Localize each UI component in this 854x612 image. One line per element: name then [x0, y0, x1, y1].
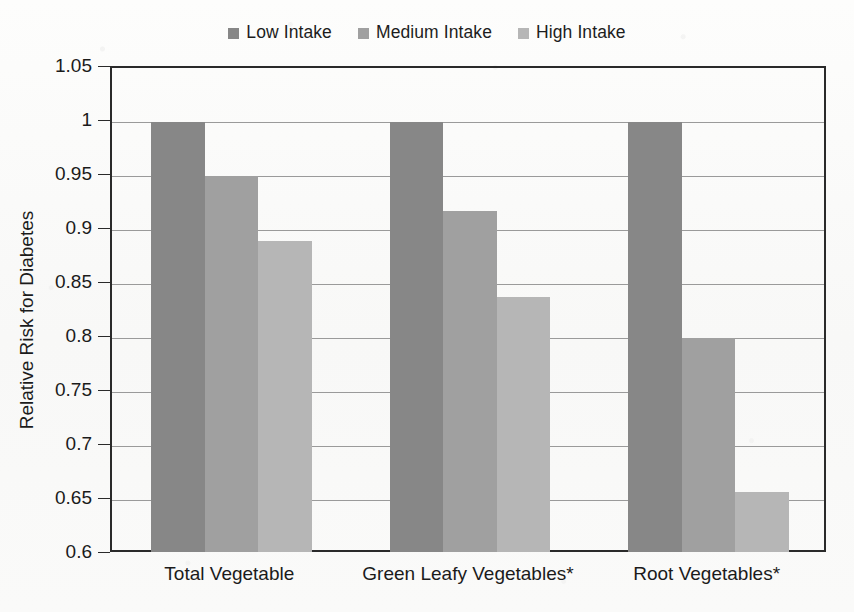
legend-item-high-intake[interactable]: High Intake [518, 22, 626, 43]
legend-item-label: Low Intake [246, 22, 332, 43]
y-axis-tick-mark [98, 498, 110, 499]
y-axis-tick-label: 0.95 [55, 163, 92, 185]
y-axis-tick-label: 0.8 [66, 325, 92, 347]
bar[interactable] [735, 492, 789, 552]
bar[interactable] [258, 241, 312, 552]
bar[interactable] [497, 297, 551, 552]
legend-swatch-low-intake [228, 28, 239, 39]
y-axis-tick-mark [98, 552, 110, 553]
y-axis-tick-mark [98, 444, 110, 445]
x-axis-category-label: Root Vegetables* [587, 563, 826, 585]
bar[interactable] [443, 211, 497, 552]
y-axis-title: Relative Risk for Diabetes [16, 130, 38, 510]
bar[interactable] [628, 122, 682, 552]
y-axis-tick-label: 0.65 [55, 487, 92, 509]
bar[interactable] [205, 176, 259, 552]
y-axis-tick-mark [98, 390, 110, 391]
x-axis-category-label: Total Vegetable [110, 563, 349, 585]
y-axis-tick-mark [98, 66, 110, 67]
y-axis-tick-label: 1.05 [55, 55, 92, 77]
y-axis-tick-label: 1 [81, 109, 92, 131]
x-axis-category-label: Green Leafy Vegetables* [349, 563, 588, 585]
gridline [112, 122, 824, 123]
legend-item-label: High Intake [536, 22, 626, 43]
y-axis-tick-mark [98, 174, 110, 175]
legend-swatch-high-intake [518, 28, 529, 39]
chart-legend: Low IntakeMedium IntakeHigh Intake [0, 22, 854, 43]
y-axis-tick-mark [98, 282, 110, 283]
y-axis-tick-mark [98, 228, 110, 229]
bar[interactable] [390, 122, 444, 552]
y-axis-tick-mark [98, 336, 110, 337]
y-axis-tick-label: 0.7 [66, 433, 92, 455]
bar-chart: Low IntakeMedium IntakeHigh Intake Relat… [0, 0, 854, 612]
bar[interactable] [151, 122, 205, 552]
y-axis-tick-mark [98, 120, 110, 121]
bar[interactable] [682, 338, 736, 552]
legend-item-medium-intake[interactable]: Medium Intake [358, 22, 492, 43]
y-axis-tick-label: 0.85 [55, 271, 92, 293]
legend-swatch-medium-intake [358, 28, 369, 39]
y-axis-tick-label: 0.9 [66, 217, 92, 239]
y-axis-tick-label: 0.6 [66, 541, 92, 563]
legend-item-low-intake[interactable]: Low Intake [228, 22, 332, 43]
y-axis-tick-label: 0.75 [55, 379, 92, 401]
plot-area [110, 66, 826, 552]
legend-item-label: Medium Intake [376, 22, 492, 43]
